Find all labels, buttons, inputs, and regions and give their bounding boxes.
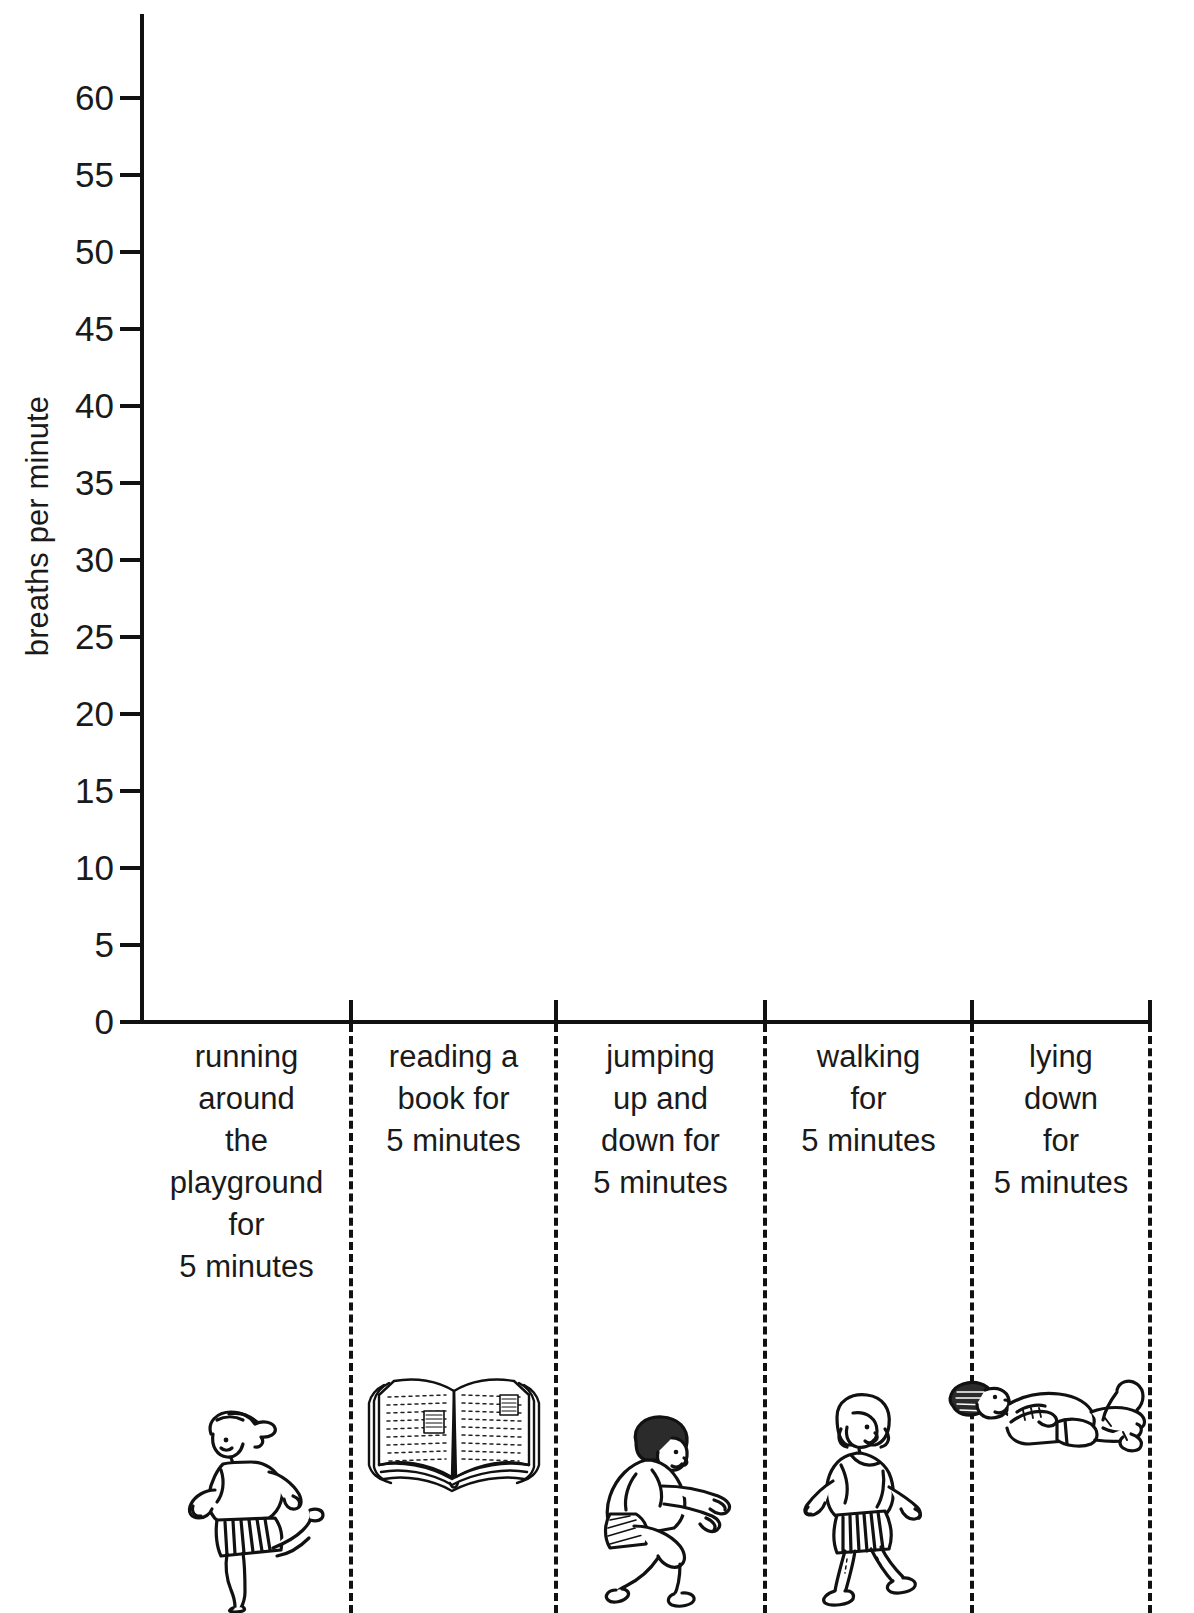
y-axis-tick-label: 20 bbox=[75, 692, 114, 736]
y-axis-tick-mark bbox=[120, 1020, 140, 1024]
walking-girl-figure bbox=[788, 1378, 938, 1613]
lying-down-figure bbox=[944, 1340, 1154, 1460]
y-axis-tick-label: 40 bbox=[75, 384, 114, 428]
open-book-figure bbox=[356, 1345, 552, 1505]
category-label-1: running around the playground for 5 minu… bbox=[142, 1036, 351, 1288]
y-axis-tick-mark bbox=[120, 558, 140, 562]
y-axis-tick-mark bbox=[120, 250, 140, 254]
y-axis-tick-label: 0 bbox=[95, 1000, 114, 1044]
y-axis-tick-mark bbox=[120, 635, 140, 639]
y-axis-tick-mark bbox=[120, 96, 140, 100]
y-axis-tick-mark bbox=[120, 327, 140, 331]
y-axis-tick-label: 50 bbox=[75, 230, 114, 274]
category-divider-tick-1 bbox=[349, 1000, 353, 1024]
y-axis-tick-label: 35 bbox=[75, 461, 114, 505]
y-axis-tick-label: 60 bbox=[75, 76, 114, 120]
y-axis-tick-label: 30 bbox=[75, 538, 114, 582]
category-label-5: lying down for 5 minutes bbox=[972, 1036, 1150, 1204]
y-axis-tick-label: 10 bbox=[75, 846, 114, 890]
chart-page: breaths per minute 605550454035302520151… bbox=[0, 0, 1194, 1613]
category-label-3: jumping up and down for 5 minutes bbox=[556, 1036, 765, 1204]
y-axis-line bbox=[140, 14, 144, 1024]
y-axis-tick-label: 5 bbox=[95, 923, 114, 967]
category-divider-tick-5 bbox=[1148, 1000, 1152, 1024]
y-axis-tick-mark bbox=[120, 173, 140, 177]
category-label-2: reading a book for 5 minutes bbox=[351, 1036, 556, 1162]
y-axis-tick-label: 45 bbox=[75, 307, 114, 351]
category-divider-tick-3 bbox=[763, 1000, 767, 1024]
crouching-jumping-figure bbox=[560, 1390, 760, 1613]
y-axis-tick-mark bbox=[120, 866, 140, 870]
category-divider-tick-4 bbox=[970, 1000, 974, 1024]
y-axis-tick-label: 55 bbox=[75, 153, 114, 197]
category-label-4: walking for 5 minutes bbox=[765, 1036, 972, 1162]
y-axis-tick-mark bbox=[120, 712, 140, 716]
y-axis-tick-mark bbox=[120, 943, 140, 947]
y-axis-tick-mark bbox=[120, 404, 140, 408]
y-axis-tick-label: 25 bbox=[75, 615, 114, 659]
y-axis-tick-mark bbox=[120, 481, 140, 485]
category-divider-tick-2 bbox=[554, 1000, 558, 1024]
y-axis-title: breaths per minute bbox=[20, 276, 56, 776]
running-girl-figure bbox=[152, 1380, 352, 1613]
x-axis-line bbox=[140, 1020, 1152, 1024]
y-axis-tick-label: 15 bbox=[75, 769, 114, 813]
y-axis-tick-mark bbox=[120, 789, 140, 793]
